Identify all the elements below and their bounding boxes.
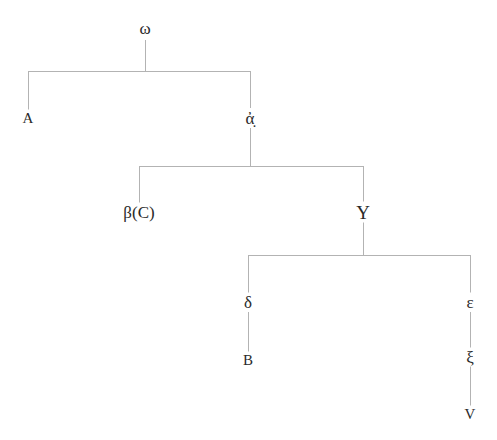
stemma-edges-layer: [0, 0, 497, 440]
tree-node-xi: ξ: [463, 348, 477, 367]
stemma-diagram: ωAἀ̣β(C)ΥδεBξV: [0, 0, 497, 440]
tree-node-beta: β(C): [120, 203, 157, 222]
tree-node-alpha: ἀ̣: [243, 109, 258, 128]
tree-node-B: B: [240, 352, 256, 369]
tree-node-delta: δ: [241, 293, 255, 312]
tree-node-epsilon: ε: [463, 293, 476, 312]
tree-node-A: A: [20, 110, 37, 127]
tree-node-omega: ω: [136, 19, 153, 38]
tree-node-V: V: [462, 406, 479, 423]
tree-node-upsilon: Υ: [353, 202, 373, 223]
